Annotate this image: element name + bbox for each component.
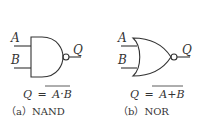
nor-label-a: A [117, 31, 127, 45]
nor-formula: Q = A+B [130, 88, 185, 101]
nor-formula-rhs: A+B [158, 88, 184, 101]
logic-gates-diagram: A B Q Q = A·B （a）NAND A B Q Q = A+B （b）N… [0, 0, 203, 129]
nand-formula: Q = A·B [23, 88, 72, 101]
nor-gate [121, 38, 190, 76]
nand-formula-rhs: A·B [51, 88, 72, 101]
nand-label-a: A [10, 31, 20, 45]
nand-label-b: B [10, 53, 20, 67]
nand-gate [14, 37, 81, 77]
nor-caption: （b）NOR [118, 106, 169, 117]
nor-bubble [171, 54, 177, 60]
nor-label-q: Q [182, 43, 192, 57]
nand-body [31, 37, 63, 77]
nor-body [133, 38, 171, 76]
nand-caption: （a）NAND [6, 106, 65, 117]
nor-label-b: B [117, 53, 127, 67]
nand-bubble [63, 54, 69, 60]
nand-label-q: Q [73, 43, 83, 57]
